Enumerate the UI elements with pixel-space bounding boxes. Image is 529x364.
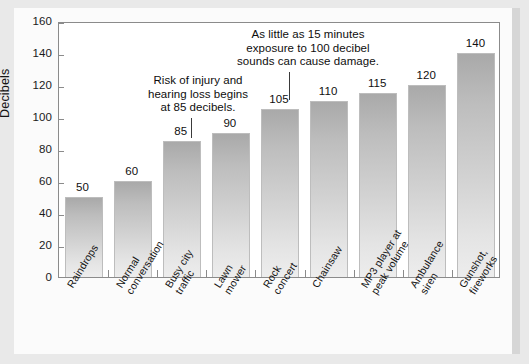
bar-value-label: 85 xyxy=(156,125,206,137)
y-axis-tick-mark xyxy=(59,215,64,216)
x-axis-tick-mark xyxy=(305,270,306,277)
y-axis-tick-mark xyxy=(59,119,64,120)
chart-annotation: As little as 15 minutes exposure to 100 … xyxy=(213,28,403,69)
y-axis-tick-label: 0 xyxy=(14,271,52,283)
bar-value-label: 90 xyxy=(205,117,255,129)
x-axis-tick-mark xyxy=(354,270,355,277)
x-axis-tick-mark xyxy=(157,270,158,277)
bar-value-label: 60 xyxy=(107,165,157,177)
bar-value-label: 120 xyxy=(401,69,451,81)
y-axis-tick-label: 160 xyxy=(14,15,52,27)
annotation-leader-line xyxy=(289,72,290,100)
y-axis-tick-mark xyxy=(59,55,64,56)
decibel-bar-chart: Decibels 020406080100120140160 506085901… xyxy=(0,0,529,364)
y-axis-tick-label: 100 xyxy=(14,111,52,123)
bar xyxy=(261,109,299,277)
x-axis-tick-mark xyxy=(108,270,109,277)
page-background: Decibels 020406080100120140160 506085901… xyxy=(0,0,529,364)
bar-value-label: 110 xyxy=(303,85,353,97)
x-axis-tick-mark xyxy=(255,270,256,277)
x-axis-tick-mark xyxy=(403,270,404,277)
y-axis-tick-label: 140 xyxy=(14,47,52,59)
y-axis-tick-label: 80 xyxy=(14,143,52,155)
y-axis-tick-mark xyxy=(59,151,64,152)
y-axis-tick-label: 120 xyxy=(14,79,52,91)
y-axis-tick-label: 20 xyxy=(14,239,52,251)
y-axis-tick-mark xyxy=(59,87,64,88)
annotation-leader-line xyxy=(191,118,192,138)
bar-value-label: 140 xyxy=(450,37,500,49)
y-axis-tick-label: 40 xyxy=(14,207,52,219)
chart-annotation: Risk of injury and hearing loss begins a… xyxy=(128,74,268,115)
bar xyxy=(457,53,495,277)
x-axis-tick-mark xyxy=(206,270,207,277)
y-axis-tick-mark xyxy=(59,247,64,248)
x-axis-tick-mark xyxy=(452,270,453,277)
bar xyxy=(212,133,250,277)
y-axis-tick-mark xyxy=(59,23,64,24)
bar-value-label: 50 xyxy=(58,181,108,193)
y-axis-tick-label: 60 xyxy=(14,175,52,187)
y-axis-title: Decibels xyxy=(0,0,12,118)
bar-value-label: 115 xyxy=(352,77,402,89)
